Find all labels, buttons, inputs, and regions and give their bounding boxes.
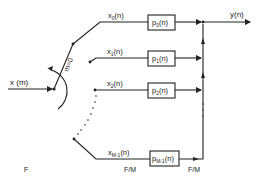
up-arrow-icon [201,72,205,78]
polyphase-diagram: x (m) m=0 x0(n) p0(n) x1(n) p1(n) [0,0,260,181]
box-out-m-1 [179,24,203,159]
input-label: x (m) [10,78,29,87]
filter-label-2: p2(n) [152,86,169,96]
branch-rate-after-label: F/M [188,166,200,173]
branch-rate-before-label: F/M [124,166,136,173]
commutator-switch: m=0 [47,44,74,109]
output-label: y(n) [230,10,244,19]
branch-line-1 [90,58,148,62]
branch-1: x1(n) p1(n) [89,47,201,66]
branch-2: x2(n) p2(n) [94,79,201,98]
output-signal: y(n) [203,10,250,22]
input-signal: x (m) [8,78,52,89]
signal-label-m-1: xM-1(n) [108,148,130,158]
filter-label-1: p1(n) [152,54,169,64]
input-rate-label: F [24,166,28,173]
up-arrow-icon [201,38,205,44]
branch-line-0 [73,22,148,44]
signal-label-2: x2(n) [107,79,123,89]
filter-label-0: p0(n) [152,18,169,28]
signal-label-0: x0(n) [108,11,124,21]
branch-0: x0(n) p0(n) [72,11,201,45]
signal-label-1: x1(n) [107,47,123,57]
branch-m-1: xM-1(n) pM-1(n) [73,24,203,166]
switch-label: m=0 [62,57,74,73]
arrow-icon [193,157,199,161]
ellipsis-dots [77,95,97,135]
